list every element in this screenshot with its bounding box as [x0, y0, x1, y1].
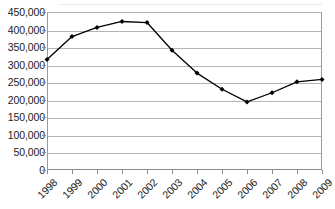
y-axis-tick-label: 150,000 [1, 112, 45, 122]
gridline [48, 66, 321, 67]
y-axis-tick [42, 12, 46, 13]
gridline [48, 118, 321, 119]
gridline [48, 153, 321, 154]
x-axis-tick-label: 2009 [305, 176, 335, 206]
y-axis-tick [42, 65, 46, 66]
x-axis-tick-label: 2003 [155, 176, 185, 206]
y-axis-tick-label: 300,000 [1, 60, 45, 70]
x-axis-tick [97, 170, 98, 174]
x-axis-tick [147, 170, 148, 174]
x-axis-tick-label: 1999 [55, 176, 85, 206]
x-axis-tick-label: 2002 [130, 176, 160, 206]
gridline [48, 31, 321, 32]
gridline [48, 83, 321, 84]
y-axis-tick-label: 250,000 [1, 77, 45, 87]
x-axis-tick [197, 170, 198, 174]
x-axis-tick [72, 170, 73, 174]
y-axis-tick [42, 30, 46, 31]
y-axis-tick-label: 50,000 [1, 147, 45, 157]
scan-artifact [60, 0, 322, 5]
y-axis: 050,000100,000150,000200,000250,000300,0… [0, 12, 45, 170]
x-axis-tick-label: 2005 [205, 176, 235, 206]
x-axis-tick-label: 2008 [280, 176, 310, 206]
y-axis-tick [42, 82, 46, 83]
y-axis-tick-label: 0 [1, 165, 45, 175]
x-axis-tick-label: 2006 [230, 176, 260, 206]
x-axis-tick-label: 2004 [180, 176, 210, 206]
y-axis-tick-label: 350,000 [1, 42, 45, 52]
y-axis-tick-label: 200,000 [1, 95, 45, 105]
plot-area [47, 12, 322, 170]
x-axis-tick [297, 170, 298, 174]
y-axis-tick [42, 117, 46, 118]
x-axis-tick-label: 2000 [80, 176, 110, 206]
y-axis-tick-label: 100,000 [1, 130, 45, 140]
x-axis-tick [122, 170, 123, 174]
x-axis-tick [247, 170, 248, 174]
y-axis-tick [42, 152, 46, 153]
y-axis-tick [42, 100, 46, 101]
x-axis: 1998199920002001200220032004200520062007… [47, 170, 322, 209]
x-axis-tick [322, 170, 323, 174]
x-axis-tick-label: 2001 [105, 176, 135, 206]
gridline [48, 101, 321, 102]
x-axis-tick [272, 170, 273, 174]
x-axis-tick [47, 170, 48, 174]
y-axis-tick-label: 450,000 [1, 7, 45, 17]
y-axis-tick [42, 47, 46, 48]
y-axis-tick-label: 400,000 [1, 25, 45, 35]
x-axis-tick [222, 170, 223, 174]
gridline [48, 48, 321, 49]
x-axis-tick-label: 1998 [30, 176, 60, 206]
y-axis-tick [42, 170, 46, 171]
y-axis-tick [42, 135, 46, 136]
x-axis-tick-label: 2007 [255, 176, 285, 206]
x-axis-tick [172, 170, 173, 174]
gridline [48, 136, 321, 137]
